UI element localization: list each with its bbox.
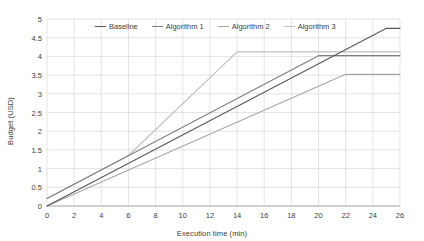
legend-item-label: Algorithm 1 [166,22,204,31]
legend-item-algorithm-3[interactable]: Algorithm 3 [284,22,336,31]
x-tick-label: 20 [314,211,322,220]
x-tick-label: 8 [154,211,158,220]
legend-line-icon [218,26,229,27]
x-tick-label: 4 [99,211,103,220]
x-tick-label: 6 [126,211,130,220]
y-tick-label: 0.5 [18,183,42,192]
legend-item-label: Baseline [109,22,138,31]
y-tick-label: 4.5 [18,33,42,42]
y-tick-label: 3 [18,89,42,98]
y-tick-label: 3.5 [18,71,42,80]
x-tick-label: 14 [233,211,241,220]
legend-item-baseline[interactable]: Baseline [95,22,138,31]
x-tick-label: 18 [287,211,295,220]
y-tick-label: 2 [18,127,42,136]
x-tick-label: 12 [206,211,214,220]
x-tick-label: 10 [179,211,187,220]
legend-item-label: Algorithm 3 [298,22,336,31]
legend-line-icon [152,26,163,27]
x-tick-label: 2 [72,211,76,220]
legend-item-algorithm-1[interactable]: Algorithm 1 [152,22,204,31]
legend-item-algorithm-2[interactable]: Algorithm 2 [218,22,270,31]
x-tick-label: 26 [396,211,404,220]
chart-legend: BaselineAlgorithm 1Algorithm 2Algorithm … [95,22,336,31]
y-tick-label: 4 [18,52,42,61]
x-tick-label: 16 [260,211,268,220]
y-tick-label: 1 [18,164,42,173]
legend-line-icon [284,26,295,27]
x-axis-title: Execution time (min) [0,229,424,238]
y-tick-label: 0 [18,202,42,211]
x-tick-label: 24 [369,211,377,220]
y-tick-label: 2.5 [18,108,42,117]
x-tick-label: 22 [342,211,350,220]
x-tick-label: 0 [45,211,49,220]
line-chart: Budget (USD) Execution time (min) 00.511… [0,0,424,241]
legend-item-label: Algorithm 2 [232,22,270,31]
legend-line-icon [95,26,106,27]
plot-area [0,0,424,241]
y-tick-label: 5 [18,15,42,24]
y-axis-title: Budget (USD) [6,91,15,151]
y-tick-label: 1.5 [18,145,42,154]
